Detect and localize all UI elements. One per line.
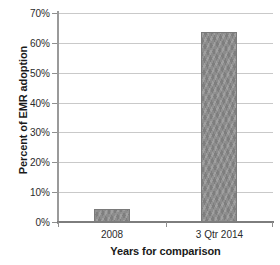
x-tick-mark [58, 222, 59, 227]
gridline [58, 43, 273, 44]
y-tick-label: 60% [2, 38, 50, 49]
y-tick-label: 20% [2, 157, 50, 168]
y-tick-label: 70% [2, 8, 50, 19]
x-tick-label-2008: 2008 [58, 229, 166, 240]
gridline [58, 192, 273, 193]
bar-chart: Percent of EMR adoption 70% 60% 50% 40% … [0, 0, 280, 265]
gridline [58, 13, 273, 14]
plot-area [58, 13, 273, 222]
x-tick-label-3-qtr-2014: 3 Qtr 2014 [166, 229, 273, 240]
gridline [58, 162, 273, 163]
x-tick-mark [272, 222, 273, 227]
y-axis-tick-labels: 70% 60% 50% 40% 30% 20% 10% 0% [0, 0, 50, 265]
bar-3-qtr-2014[interactable] [201, 32, 237, 222]
x-tick-mark [166, 222, 167, 227]
gridline [58, 103, 273, 104]
y-axis-line [57, 11, 59, 224]
y-tick-label: 0% [2, 217, 50, 228]
gridline [58, 132, 273, 133]
y-tick-label: 10% [2, 187, 50, 198]
gridline [58, 73, 273, 74]
y-tick-label: 40% [2, 98, 50, 109]
x-axis-title: Years for comparison [58, 245, 273, 257]
y-tick-label: 50% [2, 68, 50, 79]
y-tick-label: 30% [2, 127, 50, 138]
